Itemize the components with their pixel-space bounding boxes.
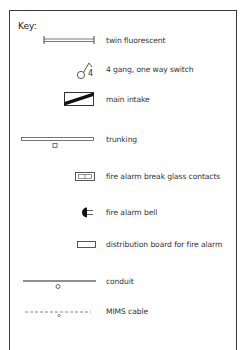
- legend-label-conduit: conduit: [106, 277, 134, 286]
- four-gang-switch-icon: 4: [75, 58, 99, 82]
- legend-label-main-intake: main intake: [106, 95, 150, 104]
- twin-fluorescent-icon: [43, 35, 95, 45]
- key-title: Key:: [18, 21, 37, 31]
- legend-label-four-gang-switch: 4 gang, one way switch: [106, 65, 194, 74]
- main-intake-icon: [64, 92, 94, 106]
- conduit-icon: [23, 280, 97, 292]
- break-glass-icon: [75, 172, 95, 181]
- legend-label-twin-fluorescent: twin fluorescent: [106, 36, 165, 45]
- legend-label-fire-alarm-bell: fire alarm bell: [106, 208, 157, 217]
- legend-label-break-glass: fire alarm break glass contacts: [106, 172, 220, 181]
- legend-label-trunking: trunking: [106, 135, 137, 144]
- legend-label-mims-cable: MIMS cable: [106, 307, 148, 316]
- mims-cable-icon: [25, 310, 91, 318]
- svg-text:4: 4: [88, 69, 93, 78]
- fire-alarm-bell-icon: [82, 207, 94, 218]
- legend-label-distribution-board: distribution board for fire alarm: [106, 240, 222, 249]
- trunking-icon: [21, 137, 95, 151]
- distribution-board-icon: [77, 241, 96, 248]
